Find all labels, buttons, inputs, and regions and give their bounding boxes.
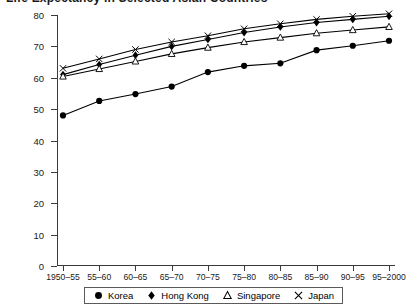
data-point (277, 60, 283, 66)
series-line (63, 14, 389, 69)
legend-label: Japan (308, 290, 334, 301)
chart-legend: KoreaHong KongSingaporeJapan (84, 287, 343, 304)
data-point (60, 112, 66, 118)
filled-circle-icon (93, 290, 104, 301)
legend-item-hong-kong[interactable]: Hong Kong (146, 290, 209, 301)
data-point (132, 91, 138, 97)
data-point (386, 23, 393, 29)
data-point (96, 98, 102, 104)
cross-icon (293, 290, 304, 301)
data-point (169, 83, 175, 89)
series-singapore (60, 23, 393, 79)
series-korea (60, 38, 392, 119)
legend-item-korea[interactable]: Korea (93, 290, 133, 301)
legend-item-singapore[interactable]: Singapore (222, 290, 280, 301)
open-triangle-icon (222, 290, 233, 301)
legend-item-japan[interactable]: Japan (293, 290, 334, 301)
filled-diamond-icon (146, 290, 157, 301)
series-line (63, 41, 389, 116)
data-point (60, 65, 66, 71)
data-point (241, 63, 247, 69)
legend-label: Singapore (237, 290, 280, 301)
data-point (350, 43, 356, 49)
legend-label: Korea (108, 290, 133, 301)
data-point (386, 38, 392, 44)
legend-label: Hong Kong (161, 290, 209, 301)
data-point (241, 29, 247, 37)
data-point (205, 36, 211, 44)
data-point (313, 47, 319, 53)
data-point (205, 69, 211, 75)
